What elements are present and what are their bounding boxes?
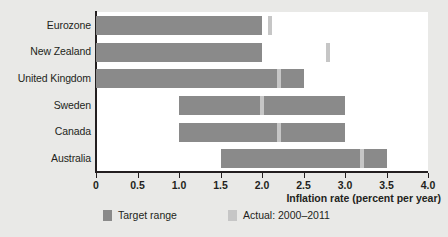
actual-value-marker [268, 16, 272, 35]
tick-label: 2.5 [289, 179, 319, 191]
bar-row [96, 16, 428, 35]
tick-mark [179, 173, 180, 178]
tick-mark [262, 173, 263, 178]
legend-swatch-icon [103, 210, 112, 221]
legend-item: Actual: 2000–2011 [228, 208, 330, 222]
actual-value-marker [360, 149, 364, 168]
bar-row [96, 96, 428, 115]
tick-label: 0 [81, 179, 111, 191]
category-label-australia: Australia [5, 152, 91, 164]
category-axis-labels: EurozoneNew ZealandUnited KingdomSwedenC… [0, 12, 91, 172]
bar-row [96, 123, 428, 142]
category-label-new-zealand: New Zealand [5, 45, 91, 57]
target-range-bar [179, 123, 345, 142]
category-label-canada: Canada [5, 125, 91, 137]
legend-swatch-icon [228, 210, 237, 221]
legend-label: Target range [118, 209, 177, 221]
tick-label: 1.5 [206, 179, 236, 191]
legend-item: Target range [103, 208, 177, 222]
actual-value-marker [277, 123, 281, 142]
tick-mark [138, 173, 139, 178]
category-label-eurozone: Eurozone [5, 19, 91, 31]
category-label-sweden: Sweden [5, 99, 91, 111]
target-range-bar [96, 16, 262, 35]
actual-value-marker [326, 43, 330, 62]
chart-legend: Target rangeActual: 2000–2011 [96, 208, 436, 224]
tick-mark [387, 173, 388, 178]
tick-label: 3.0 [330, 179, 360, 191]
target-range-bar [96, 43, 262, 62]
legend-label: Actual: 2000–2011 [243, 209, 330, 221]
tick-label: 3.5 [372, 179, 402, 191]
bar-row [96, 43, 428, 62]
inflation-target-chart: EurozoneNew ZealandUnited KingdomSwedenC… [0, 0, 448, 237]
actual-value-marker [277, 69, 281, 88]
tick-label: 2.0 [247, 179, 277, 191]
bar-row [96, 69, 428, 88]
tick-mark [96, 173, 97, 178]
category-label-united-kingdom: United Kingdom [5, 72, 91, 84]
x-axis-title: Inflation rate (percent per year) [0, 192, 441, 204]
tick-label: 1.0 [164, 179, 194, 191]
tick-mark [428, 173, 429, 178]
tick-mark [221, 173, 222, 178]
tick-mark [345, 173, 346, 178]
plot-area [96, 12, 428, 172]
actual-value-marker [260, 96, 264, 115]
bar-row [96, 149, 428, 168]
target-range-bar [96, 69, 304, 88]
tick-label: 0.5 [123, 179, 153, 191]
tick-mark [304, 173, 305, 178]
tick-label: 4.0 [413, 179, 443, 191]
